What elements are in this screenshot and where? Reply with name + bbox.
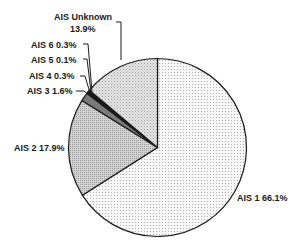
label-ais2: AIS 2 17.9% (14, 143, 65, 153)
pie-chart: AIS Unknown 13.9% AIS 6 0.3% AIS 5 0.1% … (0, 0, 304, 246)
label-ais-unknown: AIS Unknown (54, 12, 112, 22)
label-ais6: AIS 6 0.3% (31, 40, 77, 50)
label-ais4: AIS 4 0.3% (29, 71, 75, 81)
label-ais-unknown-pct: 13.9% (70, 24, 96, 34)
label-ais1: AIS 1 66.1% (237, 193, 288, 203)
label-ais3: AIS 3 1.6% (27, 86, 73, 96)
pie-slices (69, 59, 247, 237)
label-ais5: AIS 5 0.1% (31, 55, 77, 65)
leader-unknown (116, 22, 121, 60)
